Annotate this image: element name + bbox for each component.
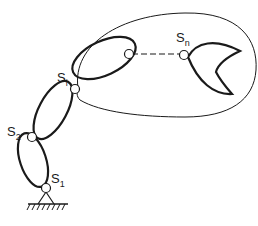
joint-s2 — [28, 133, 37, 142]
label-s1: S1 — [51, 171, 65, 189]
joint-end-of-link-i — [125, 50, 134, 59]
joint-sn — [180, 51, 189, 60]
label-sn: Sn — [176, 30, 190, 48]
workspace-envelope — [77, 13, 256, 117]
joint-si — [71, 85, 80, 94]
label-s2: S2 — [7, 124, 21, 142]
manipulator-diagram: S1 S2 Si Sn — [0, 0, 258, 226]
end-effector-gripper — [188, 43, 240, 94]
ground-base — [27, 192, 68, 210]
joint-s1 — [42, 184, 51, 193]
label-si: Si — [57, 70, 68, 88]
